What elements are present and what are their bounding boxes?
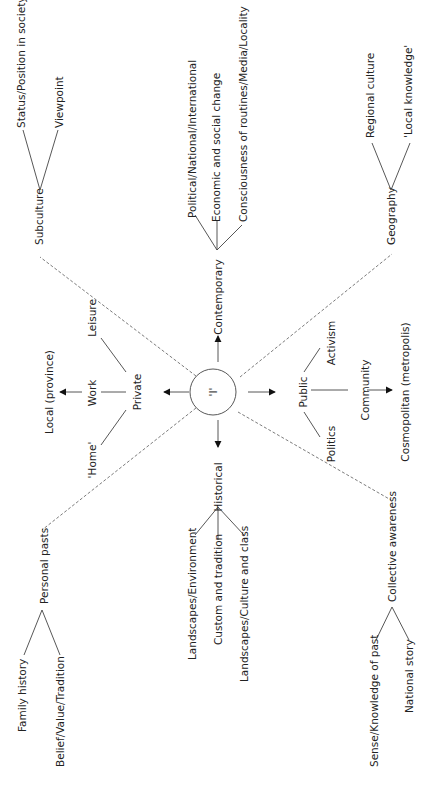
center-label: 'I' xyxy=(207,388,219,397)
branch-line xyxy=(101,410,126,445)
public-child-activism: Activism xyxy=(325,321,337,366)
contemporary-child-1: Political/National/International xyxy=(186,60,198,218)
geography-child-2: 'Local knowledge' xyxy=(402,45,414,138)
subculture-label: Subculture xyxy=(33,188,45,245)
historical-label: Historical xyxy=(212,462,224,511)
historical-child-3: Landscapes/Culture and class xyxy=(238,526,250,682)
cosmopolitan-label: Cosmopolitan (metropolis) xyxy=(399,322,411,461)
branch-line xyxy=(195,507,218,535)
geography-label: Geography xyxy=(385,187,397,245)
branch-line xyxy=(372,143,391,190)
branch-line xyxy=(23,130,40,190)
subculture-child-2: Viewpoint xyxy=(53,76,65,128)
public-label: Public xyxy=(297,376,309,407)
private-child-work: Work xyxy=(86,379,98,407)
collective-child-2: National story xyxy=(403,639,415,713)
subculture-child-1: Status/Position in society xyxy=(15,0,27,128)
branch-line xyxy=(101,338,126,372)
branch-line xyxy=(304,412,320,437)
contemporary-child-3: Consciousness of routines/Media/Locality xyxy=(237,6,249,222)
identity-diagram: 'I' Contemporary Political/National/Inte… xyxy=(0,0,437,787)
branch-line xyxy=(42,610,60,655)
branch-line xyxy=(40,130,58,190)
contemporary-child-2: Economic and social change xyxy=(210,73,222,222)
branch-line xyxy=(217,225,242,250)
branch-line xyxy=(304,348,320,372)
dashed-connector xyxy=(240,254,392,377)
branch-line xyxy=(24,610,42,655)
branch-line xyxy=(392,607,409,640)
personal-pasts-child-2: Belief/Value/Tradition xyxy=(54,656,66,767)
collective-awareness-label: Collective awareness xyxy=(386,491,398,602)
personal-pasts-child-1: Family history xyxy=(16,659,28,732)
local-province-label: Local (province) xyxy=(43,350,55,434)
personal-pasts-label: Personal pasts xyxy=(38,528,50,604)
historical-child-2: Custom and tradition xyxy=(212,534,224,645)
branch-line xyxy=(391,143,410,190)
private-label: Private xyxy=(131,374,143,411)
contemporary-label: Contemporary xyxy=(212,259,224,335)
dashed-connector xyxy=(238,412,391,500)
dashed-connector xyxy=(42,408,196,530)
private-child-home: 'Home' xyxy=(86,442,98,479)
dashed-connector xyxy=(40,257,196,376)
public-child-politics: Politics xyxy=(325,426,337,463)
historical-child-1: Landscapes/Environment xyxy=(186,528,198,660)
private-child-leisure: Leisure xyxy=(86,299,98,337)
geography-child-1: Regional culture xyxy=(364,53,376,138)
collective-child-1: Sense/Knowledge of past xyxy=(368,635,380,767)
